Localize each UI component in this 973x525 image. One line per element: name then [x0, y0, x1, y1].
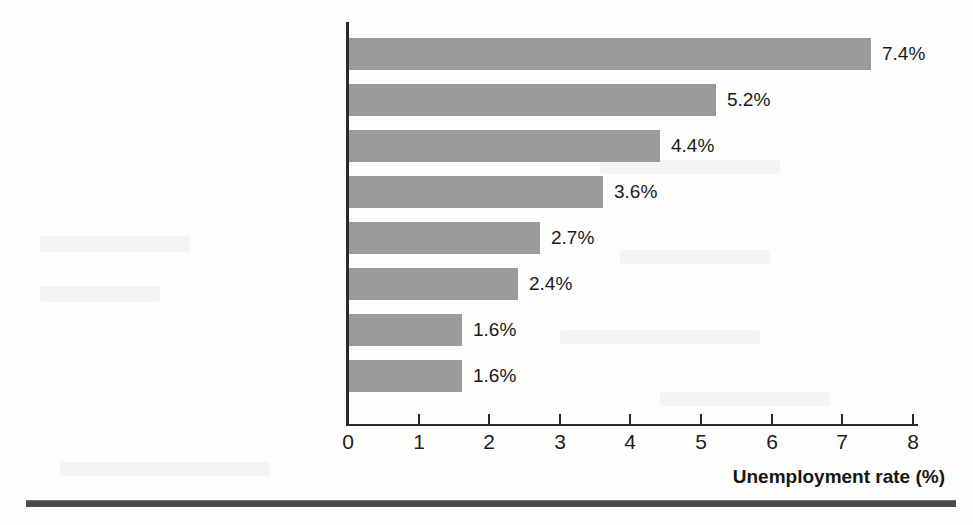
x-axis-title: Unemployment rate (%)	[733, 466, 945, 488]
bar[interactable]	[349, 314, 462, 346]
bar-value-label: 7.4%	[882, 43, 925, 65]
x-tick-label: 5	[681, 430, 721, 454]
x-tick-label: 1	[399, 430, 439, 454]
x-tick	[771, 414, 773, 425]
x-tick	[418, 414, 420, 425]
bar-value-label: 3.6%	[614, 181, 657, 203]
bar[interactable]	[349, 176, 603, 208]
x-axis-line	[346, 424, 918, 426]
figure-container: Less than a high school diploma 7.4% Hig…	[0, 0, 973, 525]
x-tick-label: 4	[610, 430, 650, 454]
x-tick-label: 3	[540, 430, 580, 454]
x-tick	[912, 414, 914, 425]
plot-area: Less than a high school diploma 7.4% Hig…	[0, 0, 973, 470]
bar-value-label: 1.6%	[473, 365, 516, 387]
x-tick-label: 2	[469, 430, 509, 454]
x-tick	[488, 414, 490, 425]
bar[interactable]	[349, 222, 540, 254]
x-tick-label: 6	[752, 430, 792, 454]
bar[interactable]	[349, 84, 716, 116]
x-tick-label: 0	[328, 430, 368, 454]
bar[interactable]	[349, 360, 462, 392]
bar-value-label: 1.6%	[473, 319, 516, 341]
x-tick	[841, 414, 843, 425]
x-tick	[347, 414, 349, 425]
bottom-rule-divider	[26, 500, 956, 507]
bar-value-label: 2.4%	[529, 273, 572, 295]
x-tick-label: 8	[893, 430, 933, 454]
x-tick	[629, 414, 631, 425]
x-tick	[700, 414, 702, 425]
bar-value-label: 5.2%	[727, 89, 770, 111]
x-tick-label: 7	[822, 430, 862, 454]
bar-value-label: 4.4%	[671, 135, 714, 157]
bar[interactable]	[349, 38, 871, 70]
bar[interactable]	[349, 130, 660, 162]
bar-value-label: 2.7%	[551, 227, 594, 249]
bar[interactable]	[349, 268, 518, 300]
x-tick	[559, 414, 561, 425]
